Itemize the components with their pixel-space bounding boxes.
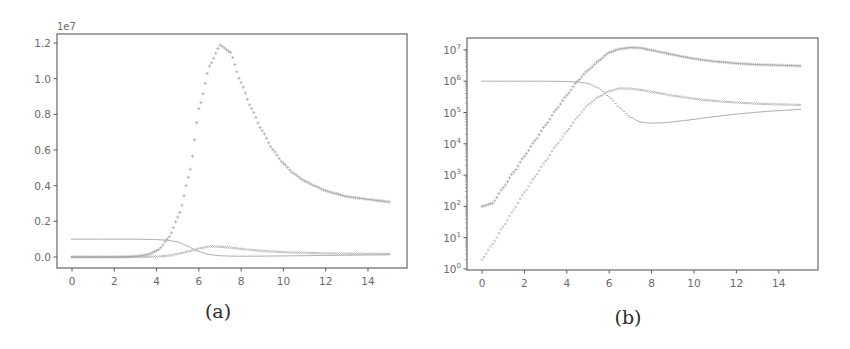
- y-tick-label: 0.6: [34, 144, 51, 156]
- series-3-secondary: [481, 87, 801, 260]
- y-tick-label: 102: [443, 199, 461, 212]
- series-1-peak: [70, 43, 390, 258]
- x-tick-label: 12: [319, 275, 332, 287]
- caption-b: (b): [615, 306, 642, 328]
- y-tick-label: 100: [443, 262, 461, 275]
- y-tick-label: 0.2: [34, 215, 51, 227]
- y-tick-label: 0.8: [34, 108, 51, 120]
- y-tick-label: 0.4: [34, 180, 51, 192]
- series-1-peak: [480, 46, 801, 208]
- plot-a-linear: 024681012140.00.20.40.60.81.01.21e7: [34, 21, 407, 287]
- x-tick-label: 10: [687, 277, 700, 289]
- series-layer: [480, 46, 801, 261]
- x-tick-label: 14: [361, 275, 375, 287]
- y-tick-label: 105: [443, 106, 461, 119]
- x-tick-label: 4: [153, 275, 160, 287]
- x-tick-label: 6: [606, 277, 613, 289]
- x-tick-label: 12: [730, 277, 743, 289]
- x-tick-label: 4: [563, 277, 570, 289]
- x-tick-label: 8: [648, 277, 655, 289]
- series-layer: [70, 43, 390, 258]
- x-tick-label: 0: [479, 277, 486, 289]
- plot-b-log: 02468101214100101102103104105106107: [443, 38, 818, 289]
- x-tick-label: 14: [772, 277, 786, 289]
- y-tick-label: 1.2: [34, 37, 51, 49]
- y-tick-label: 101: [443, 231, 461, 244]
- x-tick-label: 2: [111, 275, 118, 287]
- series-2-decline: [481, 81, 801, 123]
- figure: 024681012140.00.20.40.60.81.01.21e7 0246…: [0, 0, 850, 349]
- x-tick-label: 6: [195, 275, 202, 287]
- y-tick-label: 106: [443, 74, 461, 87]
- y-tick-label: 107: [443, 43, 461, 56]
- y-tick-label: 104: [443, 137, 461, 150]
- axes-frame: [57, 34, 407, 268]
- axes-frame: [467, 38, 818, 270]
- y-tick-label: 103: [443, 168, 461, 181]
- x-tick-label: 10: [277, 275, 290, 287]
- x-tick-label: 2: [521, 277, 528, 289]
- y-tick-label: 0.0: [34, 251, 51, 263]
- y-tick-label: 1.0: [34, 73, 51, 85]
- x-tick-label: 0: [69, 275, 76, 287]
- x-tick-label: 8: [238, 275, 245, 287]
- y-offset-label: 1e7: [57, 21, 76, 32]
- caption-a: (a): [205, 300, 231, 322]
